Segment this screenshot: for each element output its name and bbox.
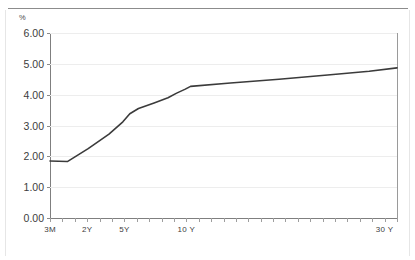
x-axis-tick bbox=[335, 218, 336, 222]
y-axis-tick-label: 3.00 bbox=[24, 120, 44, 132]
y-axis-tick-label: 5.00 bbox=[24, 58, 44, 70]
x-axis-tick bbox=[261, 218, 262, 222]
x-axis-tick bbox=[372, 218, 373, 222]
x-axis-tick bbox=[186, 218, 187, 222]
x-axis-tick bbox=[62, 218, 63, 222]
x-axis-tick bbox=[310, 218, 311, 222]
x-axis-tick bbox=[224, 218, 225, 222]
x-axis-tick bbox=[87, 218, 88, 222]
x-axis-tick bbox=[298, 218, 299, 222]
plot-frame-right bbox=[397, 33, 398, 218]
x-axis-tick bbox=[273, 218, 274, 222]
x-axis-tick-label: 30 Y bbox=[376, 225, 394, 234]
x-axis-tick-label: 2Y bbox=[82, 225, 92, 234]
x-axis-tick-label: 5Y bbox=[119, 225, 129, 234]
page-left-edge bbox=[5, 10, 6, 256]
y-axis-tick-label: 6.00 bbox=[24, 27, 44, 39]
series-polyline bbox=[50, 68, 397, 162]
x-axis-tick bbox=[248, 218, 249, 222]
x-axis-tick bbox=[285, 218, 286, 222]
x-axis-tick bbox=[397, 218, 398, 222]
y-axis-tick-label: 0.00 bbox=[24, 212, 44, 224]
y-axis-unit-label: % bbox=[19, 13, 26, 22]
plot-area: 0.001.002.003.004.005.006.00 3M2Y5Y10 Y3… bbox=[50, 33, 397, 218]
x-axis-tick bbox=[137, 218, 138, 222]
x-axis-tick bbox=[50, 218, 51, 222]
page-top-rule bbox=[8, 8, 408, 9]
x-axis-tick bbox=[360, 218, 361, 222]
x-axis-tick bbox=[323, 218, 324, 222]
x-axis-tick-label: 3M bbox=[44, 225, 56, 234]
chart-page: % 0.001.002.003.004.005.006.00 3M2Y5Y10 … bbox=[0, 0, 415, 260]
x-axis-tick bbox=[199, 218, 200, 222]
x-axis-tick bbox=[211, 218, 212, 222]
yield-curve-line bbox=[50, 33, 397, 218]
x-axis-tick bbox=[100, 218, 101, 222]
x-axis-tick bbox=[236, 218, 237, 222]
y-axis-tick-label: 1.00 bbox=[24, 181, 44, 193]
x-axis-tick bbox=[112, 218, 113, 222]
x-axis-tick bbox=[347, 218, 348, 222]
x-axis-tick bbox=[149, 218, 150, 222]
y-axis-tick-label: 2.00 bbox=[24, 150, 44, 162]
page-right-edge bbox=[409, 10, 410, 256]
y-axis-tick-label: 4.00 bbox=[24, 89, 44, 101]
x-axis-tick bbox=[385, 218, 386, 222]
x-axis-tick bbox=[75, 218, 76, 222]
x-axis-tick bbox=[162, 218, 163, 222]
x-axis-tick bbox=[124, 218, 125, 222]
x-axis-tick bbox=[174, 218, 175, 222]
x-axis-tick-label: 10 Y bbox=[178, 225, 196, 234]
